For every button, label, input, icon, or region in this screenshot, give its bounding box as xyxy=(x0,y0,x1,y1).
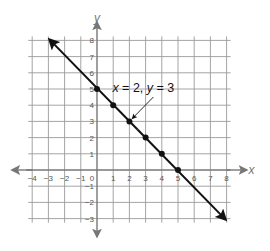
y-tick-label: 8 xyxy=(90,36,95,45)
x-tick-label: 6 xyxy=(192,174,197,183)
data-point xyxy=(175,167,181,173)
x-tick-label: −2 xyxy=(60,174,70,183)
x-tick-label: 7 xyxy=(208,174,213,183)
data-point xyxy=(110,102,116,108)
y-tick-label: 7 xyxy=(90,53,95,62)
x-tick-label: 5 xyxy=(176,174,181,183)
data-line xyxy=(49,39,225,219)
x-tick-label: −3 xyxy=(44,174,54,183)
x-tick-label: 1 xyxy=(111,174,116,183)
data-point xyxy=(159,151,165,157)
data-point xyxy=(94,86,100,92)
annotation-label: x = 2, y = 3 xyxy=(111,81,174,95)
data-point xyxy=(143,135,149,141)
y-tick-label: −3 xyxy=(85,215,95,224)
y-tick-label: 5 xyxy=(90,85,95,94)
x-tick-label: 8 xyxy=(224,174,229,183)
y-tick-label: −2 xyxy=(85,198,95,207)
annotation-arrow xyxy=(132,97,153,118)
data-point xyxy=(126,118,132,124)
y-tick-label: 2 xyxy=(90,134,95,143)
x-tick-label: −4 xyxy=(28,174,38,183)
x-tick-label: 3 xyxy=(143,174,148,183)
y-axis-label: y xyxy=(93,11,101,25)
y-tick-label: 1 xyxy=(90,150,95,159)
tick-labels: −4−3−2−1012345678−3−2−112345678 xyxy=(28,36,230,223)
y-tick-label: 6 xyxy=(90,69,95,78)
x-axis-label: x xyxy=(248,163,256,177)
y-tick-label: −1 xyxy=(85,182,95,191)
coordinate-plane: −4−3−2−1012345678−3−2−112345678 x = 2, y… xyxy=(0,0,270,251)
y-tick-label: 4 xyxy=(90,101,95,110)
y-tick-label: 3 xyxy=(90,117,95,126)
x-tick-label: 2 xyxy=(127,174,132,183)
x-tick-label: 4 xyxy=(160,174,165,183)
